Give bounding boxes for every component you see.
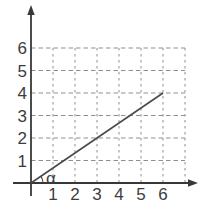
y-tick-label: 6 xyxy=(18,39,27,58)
slope-angle-plot: α123456123456 xyxy=(0,0,209,204)
x-tick-label: 3 xyxy=(92,185,101,204)
x-tick-label: 2 xyxy=(70,185,79,204)
x-tick-label: 1 xyxy=(48,185,57,204)
x-tick-label: 5 xyxy=(136,185,145,204)
y-tick-label: 3 xyxy=(18,107,27,126)
y-tick-label: 5 xyxy=(18,62,27,81)
angle-arc xyxy=(41,176,43,183)
coordinate-plane-figure: α123456123456 xyxy=(0,0,209,204)
x-tick-label: 6 xyxy=(158,185,167,204)
x-axis-arrowhead-icon xyxy=(188,179,198,186)
y-tick-label: 1 xyxy=(18,152,27,171)
y-tick-label: 2 xyxy=(18,129,27,148)
y-tick-label: 4 xyxy=(18,84,27,103)
y-axis-arrowhead-icon xyxy=(27,5,34,15)
x-tick-label: 4 xyxy=(114,185,123,204)
